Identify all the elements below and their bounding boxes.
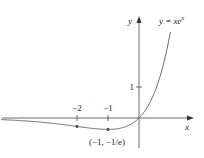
x-tick-label-minus1: −1 — [103, 103, 113, 113]
x-axis-arrow-icon — [187, 116, 194, 121]
point-minimum — [106, 128, 109, 131]
function-label: y = xex — [158, 15, 185, 26]
x-tick-label-minus2: −2 — [72, 103, 82, 113]
minimum-point-annotation: (−1, −1/e) — [89, 137, 125, 147]
function-curve — [1, 32, 170, 129]
y-axis-label: y — [127, 16, 132, 26]
y-axis-arrow-icon — [137, 16, 142, 23]
x-axis-label: x — [184, 122, 189, 132]
graph-canvas: −2 −1 1 x y (−1, −1/e) y = xex — [0, 0, 204, 158]
point-minus2 — [75, 125, 78, 128]
y-tick-label-1: 1 — [130, 82, 135, 92]
